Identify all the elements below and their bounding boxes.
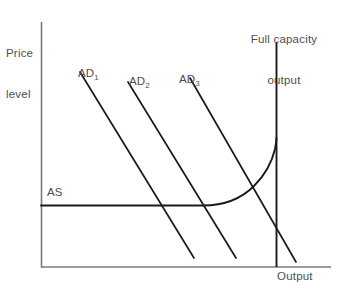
ad1-label-text: AD: [78, 67, 94, 79]
x-axis-label: Output: [277, 270, 313, 284]
ad2-label-subscript: 2: [145, 81, 149, 90]
y-axis-label-line1: Price: [6, 47, 33, 61]
ad3-curve-label: AD3: [166, 59, 200, 104]
y-axis-label-line2: level: [6, 88, 33, 102]
full-capacity-label: Full capacity output: [238, 6, 330, 114]
as-curve: [41, 138, 277, 206]
full-capacity-label-line2: output: [238, 74, 330, 88]
ad1-curve-label: AD1: [65, 53, 99, 98]
as-curve-label: AS: [47, 186, 63, 200]
ad1-label-subscript: 1: [94, 73, 98, 82]
full-capacity-label-line1: Full capacity: [238, 33, 330, 47]
y-axis-label: Price level: [6, 20, 33, 128]
as-ad-diagram: Price level Output Full capacity output …: [0, 0, 342, 294]
ad3-label-text: AD: [179, 73, 195, 85]
ad3-label-subscript: 3: [195, 79, 199, 88]
ad2-label-text: AD: [129, 75, 145, 87]
ad2-curve: [128, 82, 236, 258]
ad2-curve-label: AD2: [116, 61, 150, 106]
